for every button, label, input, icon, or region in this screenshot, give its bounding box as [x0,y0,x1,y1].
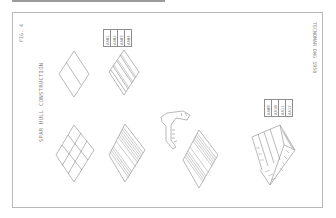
hull-module-icon [252,125,295,185]
stiffened-panel-4-icon [109,50,139,95]
flat-panel-2-icon [59,51,89,97]
stiffened-panel-dense-2-icon [183,130,218,188]
stiffened-panel-dense-icon [109,124,145,182]
drawing-canvas [0,0,336,218]
flat-panel-9-icon [56,125,94,182]
ring-frame-icon [161,111,190,149]
